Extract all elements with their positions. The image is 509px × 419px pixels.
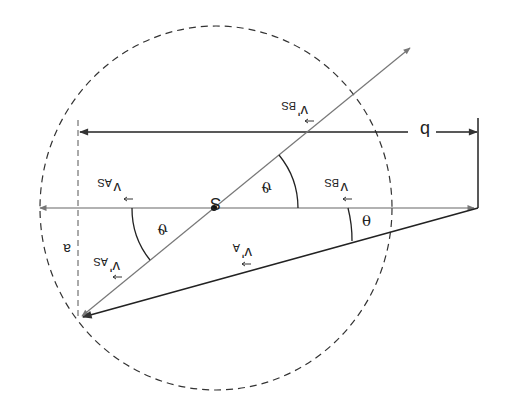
- svg-text:a: a: [63, 241, 71, 257]
- svg-text:ϑ: ϑ: [261, 178, 272, 196]
- svg-text:v': v': [298, 103, 309, 120]
- diagram-canvas: S v AS v BS v' BS v' AS v' A ϑ ϑ θ b a: [0, 0, 509, 419]
- va-prime-line: [83, 208, 478, 317]
- label-v-a-prime: v' A: [232, 242, 252, 262]
- diagonal-vbs-prime: [214, 48, 410, 208]
- theta-arc: [348, 208, 352, 241]
- svg-text:b: b: [420, 120, 430, 140]
- svg-text:v: v: [340, 180, 348, 197]
- arrow-accent-v-bs-prime: [305, 119, 314, 123]
- svg-text:v': v': [242, 245, 253, 262]
- collision-diagram: S v AS v BS v' BS v' AS v' A ϑ ϑ θ b a: [0, 0, 509, 419]
- svg-text:BS: BS: [281, 100, 296, 112]
- svg-text:v': v': [110, 259, 121, 276]
- svg-text:A: A: [232, 242, 240, 254]
- svg-text:v: v: [113, 180, 121, 197]
- label-v-as: v AS: [97, 177, 121, 197]
- svg-text:θ: θ: [362, 212, 371, 230]
- label-theta: θ: [362, 212, 371, 230]
- label-s: S: [210, 195, 221, 212]
- vartheta-arc-lower: [132, 208, 150, 260]
- label-v-bs-prime: v' BS: [281, 100, 308, 120]
- label-v-bs: v BS: [324, 177, 348, 197]
- label-b: b: [420, 120, 430, 140]
- arrow-accent-v-as: [124, 197, 133, 201]
- label-a: a: [63, 241, 71, 257]
- label-v-as-prime: v' AS: [93, 256, 120, 276]
- label-vartheta-lower: ϑ: [157, 220, 168, 238]
- svg-text:BS: BS: [324, 177, 339, 189]
- svg-text:ϑ: ϑ: [157, 220, 168, 238]
- vartheta-arc-upper: [279, 155, 298, 208]
- label-vartheta-upper: ϑ: [261, 178, 272, 196]
- svg-text:AS: AS: [97, 177, 112, 189]
- svg-text:AS: AS: [93, 256, 108, 268]
